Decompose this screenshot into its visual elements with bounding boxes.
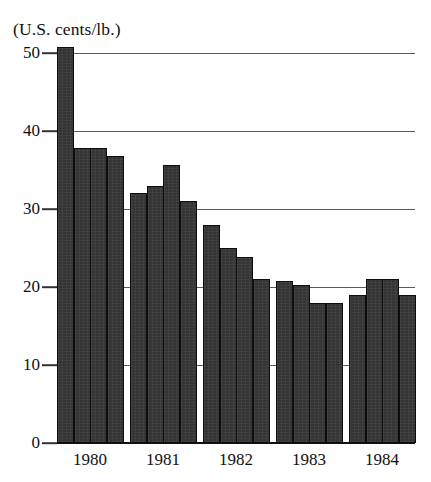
bar-chart-figure: (U.S. cents/lb.) 01020304050 19801981198… xyxy=(0,0,431,482)
bar xyxy=(90,148,107,443)
bar xyxy=(276,281,293,443)
x-axis-label-1981: 1981 xyxy=(146,450,180,470)
y-axis-tick-mark xyxy=(42,442,57,444)
bar xyxy=(293,285,310,443)
bar xyxy=(180,201,197,443)
y-axis-tick-mark xyxy=(42,364,57,366)
y-axis-tick-label: 10 xyxy=(23,355,40,375)
x-axis-label-1983: 1983 xyxy=(292,450,326,470)
y-axis-units-caption: (U.S. cents/lb.) xyxy=(13,19,121,40)
bar xyxy=(236,257,253,443)
bar xyxy=(382,279,399,443)
plot-area xyxy=(57,53,415,443)
bar xyxy=(309,303,326,443)
y-axis-tick-mark xyxy=(42,286,57,288)
bar xyxy=(203,225,220,443)
bar xyxy=(163,165,180,443)
bar xyxy=(326,303,343,443)
y-axis-tick-mark xyxy=(42,52,57,54)
y-axis-tick-label: 50 xyxy=(23,43,40,63)
x-axis-label-1984: 1984 xyxy=(365,450,399,470)
bar xyxy=(74,148,91,443)
gridline xyxy=(57,131,415,132)
x-axis-label-1982: 1982 xyxy=(219,450,253,470)
bar xyxy=(253,279,270,443)
y-axis-tick-labels: 01020304050 xyxy=(0,53,40,443)
y-axis-tick-label: 20 xyxy=(23,277,40,297)
bar xyxy=(147,186,164,443)
bar xyxy=(57,47,74,443)
bar xyxy=(366,279,383,443)
y-axis-tick-mark xyxy=(42,208,57,210)
gridline xyxy=(57,53,415,54)
y-axis-tick-marks xyxy=(42,53,57,443)
x-axis-category-labels: 19801981198219831984 xyxy=(57,450,415,480)
x-axis-label-1980: 1980 xyxy=(73,450,107,470)
y-axis-tick-label: 0 xyxy=(32,433,41,453)
bar xyxy=(107,156,124,443)
y-axis-tick-label: 30 xyxy=(23,199,40,219)
bar xyxy=(349,295,366,443)
bar xyxy=(130,193,147,443)
bar xyxy=(220,248,237,443)
y-axis-tick-label: 40 xyxy=(23,121,40,141)
bar xyxy=(399,295,416,443)
y-axis-tick-mark xyxy=(42,130,57,132)
